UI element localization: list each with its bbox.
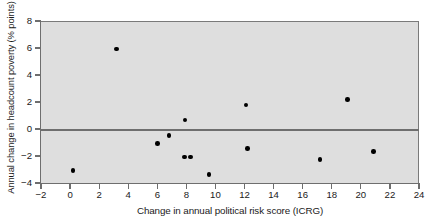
scatter-chart-figure: Annual change in headcount poverty (% po… xyxy=(0,0,433,224)
zero-reference-line xyxy=(41,129,419,130)
data-point xyxy=(155,141,160,146)
data-point xyxy=(188,155,193,160)
x-axis-tick-label: 16 xyxy=(291,190,315,200)
x-axis-tick-label: 4 xyxy=(116,190,140,200)
x-axis-tick-label: 8 xyxy=(174,190,198,200)
y-axis-tick-label: 2 xyxy=(10,97,32,107)
plot-area xyxy=(41,21,419,183)
y-axis-tick xyxy=(35,74,40,75)
x-axis-title: Change in annual political risk score (I… xyxy=(41,205,419,216)
y-axis-tick xyxy=(35,128,40,129)
x-axis-tick-label: 24 xyxy=(407,190,431,200)
x-axis-line xyxy=(40,183,420,184)
data-point xyxy=(71,168,76,173)
y-axis-tick xyxy=(35,20,40,21)
x-axis-tick-label: 6 xyxy=(145,190,169,200)
x-axis-tick-label: 2 xyxy=(87,190,111,200)
x-axis-tick-label: 20 xyxy=(349,190,373,200)
data-point xyxy=(114,47,119,52)
data-point xyxy=(371,149,376,154)
x-axis-tick-label: 22 xyxy=(378,190,402,200)
data-point xyxy=(182,155,187,160)
data-point xyxy=(318,157,323,162)
y-axis-tick-label: −2 xyxy=(10,151,32,161)
y-axis-tick-label: 4 xyxy=(10,70,32,80)
y-axis-tick-label: −4 xyxy=(10,178,32,188)
x-axis-tick-label: 10 xyxy=(203,190,227,200)
data-point xyxy=(345,97,350,102)
y-axis-tick-label: 8 xyxy=(10,16,32,26)
y-axis-tick xyxy=(35,101,40,102)
y-axis-tick-label: 0 xyxy=(10,124,32,134)
data-point xyxy=(183,118,188,123)
data-point xyxy=(167,133,172,138)
x-axis-tick-label: 14 xyxy=(262,190,286,200)
x-axis-tick-label: 18 xyxy=(320,190,344,200)
y-axis-tick xyxy=(35,182,40,183)
x-axis-tick-label: 0 xyxy=(58,190,82,200)
x-axis-tick-label: 12 xyxy=(233,190,257,200)
data-point xyxy=(245,146,250,151)
x-axis-tick-label: −2 xyxy=(29,190,53,200)
data-point xyxy=(207,172,212,177)
data-point xyxy=(244,103,249,108)
y-axis-tick-label: 6 xyxy=(10,43,32,53)
y-axis-tick xyxy=(35,155,40,156)
y-axis-tick xyxy=(35,47,40,48)
